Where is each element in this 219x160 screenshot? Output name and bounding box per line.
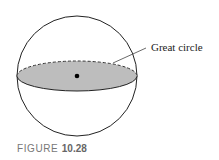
figure-caption: FIGURE 10.28 — [17, 143, 87, 154]
label-leader-line — [113, 48, 146, 63]
caption-prefix: FIGURE — [17, 143, 58, 154]
caption-number: 10.28 — [62, 143, 87, 154]
center-point — [75, 74, 80, 79]
great-circle-label: Great circle — [151, 41, 203, 53]
sphere-diagram — [0, 0, 219, 160]
